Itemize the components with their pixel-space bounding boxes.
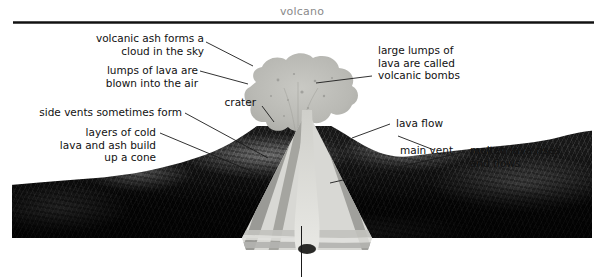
- leader-side-vents: [185, 113, 268, 158]
- page-title: volcano: [0, 5, 604, 18]
- leader-crater: [262, 106, 274, 122]
- label-crater: crater: [190, 96, 256, 109]
- label-lava-flow: lava flow: [396, 117, 486, 130]
- label-main-vent: main vent: [400, 144, 470, 157]
- leader-volcanic-bombs: [316, 76, 372, 83]
- leader-ash-cloud: [206, 42, 253, 66]
- leader-lava-flow: [352, 124, 390, 138]
- header-divider: [13, 21, 594, 24]
- label-volcanic-bombs: large lumps of lava are called volcanic …: [378, 44, 528, 82]
- page-root: volcano: [0, 0, 604, 277]
- label-side-vents: side vents sometimes form: [26, 106, 182, 119]
- leader-lumps-of-lava: [200, 71, 248, 84]
- label-molten-lava: molten lava rises and flows: [470, 144, 596, 169]
- leader-molten-lava: [330, 152, 464, 183]
- label-ash-cloud: volcanic ash forms a cloud in the sky: [66, 32, 204, 57]
- label-layers: layers of cold lava and ash build up a c…: [20, 126, 156, 164]
- label-lumps-of-lava: lumps of lava are blown into the air: [62, 64, 198, 89]
- center-axis-tick: [301, 226, 302, 277]
- volcano-diagram: volcanic ash forms a cloud in the sky lu…: [0, 26, 604, 277]
- leader-layers: [160, 133, 258, 174]
